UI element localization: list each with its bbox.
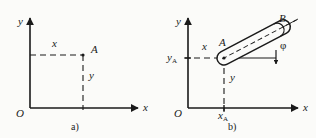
panel-b-x-dimension-label: x [202, 41, 207, 52]
panel-b-y-coordinate-tick-label: yA [167, 52, 177, 63]
rigid-rod-body [215, 14, 300, 68]
panel-a-y-axis-label: y [18, 16, 23, 27]
point-a-marker [222, 56, 225, 59]
panel-a-x-dimension-label: x [52, 38, 57, 49]
panel-b-point-a-label: A [219, 37, 226, 48]
panel-a-y-dimension-label: y [89, 70, 94, 81]
figure-root: y x O x y A a) [0, 0, 316, 138]
y-tick-subscript: A [172, 57, 177, 65]
panel-b-rigid-body-position: y x O yA xA x y A B φ b) [158, 0, 316, 138]
panel-a-point-a-label: A [91, 44, 98, 55]
panel-a-origin-label: O [16, 108, 24, 119]
panel-b-angle-phi-label: φ [280, 40, 286, 51]
panel-b-x-axis-label: x [303, 102, 308, 113]
panel-b-y-axis-label: y [176, 16, 181, 27]
panel-a-point-coordinates: y x O x y A a) [0, 0, 158, 138]
panel-a-x-axis-label: x [143, 102, 148, 113]
panel-b-y-dimension-label: y [230, 72, 235, 83]
panel-b-x-coordinate-tick-label: xA [218, 110, 228, 121]
panel-b-point-b-label: B [279, 13, 286, 24]
panel-b-origin-label: O [174, 108, 182, 119]
point-a-marker [81, 53, 84, 56]
panel-b-caption: b) [228, 122, 236, 132]
panel-a-caption: a) [71, 122, 79, 132]
